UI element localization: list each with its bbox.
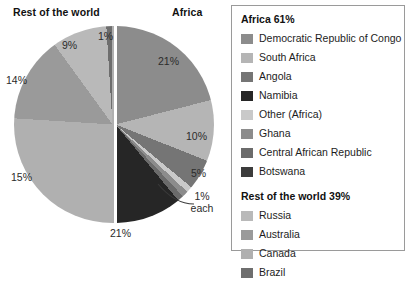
pie-half-rest-of-world xyxy=(14,26,114,226)
legend-item[interactable]: Angola xyxy=(241,67,396,86)
legend-swatch-icon xyxy=(241,72,253,82)
label-canada-percent: 15% xyxy=(11,172,32,184)
legend-swatch-icon xyxy=(241,211,253,221)
label-south-africa-percent: 10% xyxy=(186,131,207,143)
legend-item-label: Democratic Republic of Congo xyxy=(259,33,401,44)
legend-item-label: Namibia xyxy=(259,90,298,101)
legend-swatch-icon xyxy=(241,34,253,44)
label-drc-percent: 21% xyxy=(158,56,179,68)
label-australia-percent: 14% xyxy=(6,75,27,87)
legend-swatch-icon xyxy=(241,230,253,240)
legend-item-label: Russia xyxy=(259,210,291,221)
legend-item[interactable]: South Africa xyxy=(241,48,396,67)
legend-panel: Africa 61% Democratic Republic of CongoS… xyxy=(231,5,405,251)
legend-item-label: Ghana xyxy=(259,128,291,139)
legend-swatch-icon xyxy=(241,53,253,63)
legend-swatch-icon xyxy=(241,129,253,139)
pie-slices-rest-of-world xyxy=(14,26,114,223)
legend-item[interactable]: Brazil xyxy=(241,263,396,282)
legend-item-label: South Africa xyxy=(259,52,316,63)
label-one-percent-each-line2: each xyxy=(191,202,214,214)
legend-item-label: Botswana xyxy=(259,166,305,177)
label-botswana-percent: 21% xyxy=(110,228,131,240)
legend-item-label: Canada xyxy=(259,248,296,259)
legend-swatch-icon xyxy=(241,268,253,278)
pie-chart-area: Rest of the world Africa 21% 10% 5% 1% e… xyxy=(0,0,228,257)
legend-item[interactable]: Namibia xyxy=(241,86,396,105)
legend-africa-title: Africa 61% xyxy=(241,13,396,25)
legend-item[interactable]: Botswana xyxy=(241,162,396,181)
legend-africa-items: Democratic Republic of CongoSouth Africa… xyxy=(241,29,396,181)
legend-item[interactable]: Other (Africa) xyxy=(241,105,396,124)
legend-swatch-icon xyxy=(241,167,253,177)
legend-item[interactable]: Canada xyxy=(241,244,396,263)
pie-graphic xyxy=(14,26,214,226)
legend-item[interactable]: Russia xyxy=(241,206,396,225)
legend-item[interactable]: Australia xyxy=(241,225,396,244)
legend-item[interactable]: Ghana xyxy=(241,124,396,143)
rest-of-world-side-title: Rest of the world xyxy=(13,6,100,18)
legend-swatch-icon xyxy=(241,110,253,120)
legend-swatch-icon xyxy=(241,148,253,158)
africa-side-title: Africa xyxy=(172,6,202,18)
legend-item[interactable]: Democratic Republic of Congo xyxy=(241,29,396,48)
label-brazil-percent: 1% xyxy=(98,31,113,43)
legend-swatch-icon xyxy=(241,249,253,259)
label-one-percent-each: 1% each xyxy=(185,190,219,214)
label-angola-percent: 5% xyxy=(191,168,206,180)
legend-rest-of-world-items: RussiaAustraliaCanadaBrazil xyxy=(241,206,396,282)
legend-item[interactable]: Central African Republic xyxy=(241,143,396,162)
legend-swatch-icon xyxy=(241,91,253,101)
legend-rest-of-world-title: Rest of the world 39% xyxy=(241,190,396,202)
label-one-percent-each-line1: 1% xyxy=(194,190,209,202)
legend-item-label: Australia xyxy=(259,229,300,240)
legend-item-label: Other (Africa) xyxy=(259,109,322,120)
legend-item-label: Angola xyxy=(259,71,292,82)
legend-item-label: Central African Republic xyxy=(259,147,372,158)
legend-item-label: Brazil xyxy=(259,267,285,278)
label-russia-percent: 9% xyxy=(62,40,77,52)
